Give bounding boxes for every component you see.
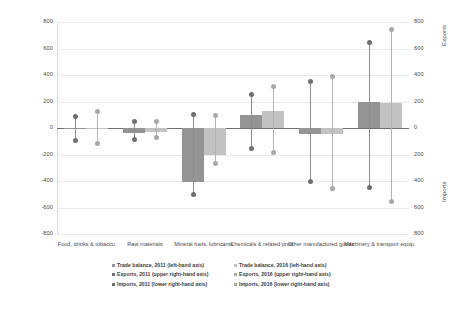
import-marker-dot [271, 150, 276, 155]
import-marker-dot [95, 141, 100, 146]
y-tick-right: 400 [414, 178, 424, 184]
export-import-stem [332, 76, 333, 188]
legend-item[interactable]: Trade balance, 2011 (left-hand axis) [112, 263, 230, 268]
y-tick-right: 800 [414, 19, 424, 25]
import-marker-dot [73, 138, 78, 143]
legend-item-label: Trade balance, 2011 (left-hand axis) [117, 263, 204, 268]
category-group [116, 22, 175, 234]
y-axis-right-lower-title: Imports [441, 181, 447, 202]
y-axis-right-upper-title: Exports [441, 25, 447, 46]
export-marker-dot [330, 74, 335, 79]
export-import-stem [310, 82, 311, 182]
export-marker-dot [389, 27, 394, 32]
legend-item-label: Exports, 2016 (upper right-hand axis) [239, 272, 331, 277]
import-marker-dot [367, 185, 372, 190]
y-tick-left: 600 [43, 46, 53, 52]
export-import-stem [369, 43, 370, 188]
category-group [57, 22, 116, 234]
y-tick-right: 600 [414, 205, 424, 211]
export-marker-dot [308, 79, 313, 84]
plot-area [57, 22, 409, 234]
y-tick-left: -400 [41, 178, 53, 184]
export-import-stem [215, 115, 216, 163]
y-tick-right: 400 [414, 72, 424, 78]
y-tick-left: 800 [43, 19, 53, 25]
legend-item[interactable]: Imports, 2016 (lower right-hand axis) [234, 282, 352, 287]
export-marker-dot [213, 113, 218, 118]
import-marker-dot [213, 161, 218, 166]
y-tick-right: 200 [414, 152, 424, 158]
export-marker-dot [191, 112, 196, 117]
y-tick-right: 0 [414, 125, 417, 131]
y-tick-right: 800 [414, 231, 424, 237]
import-marker-dot [154, 135, 159, 140]
import-marker-dot [389, 199, 394, 204]
legend-item[interactable]: Exports, 2011 (upper right-hand axis) [112, 272, 230, 277]
y-tick-left: -800 [41, 231, 53, 237]
legend-item-label: Imports, 2011 (lower right-hand axis) [117, 282, 207, 287]
import-marker-dot [308, 179, 313, 184]
export-marker-dot [73, 114, 78, 119]
legend-column-2016: Trade balance, 2016 (left-hand axis)Expo… [234, 263, 352, 287]
export-marker-dot [132, 119, 137, 124]
export-marker-dot [95, 109, 100, 114]
legend-swatch-icon [234, 264, 237, 267]
legend-swatch-icon [112, 264, 115, 267]
legend-item[interactable]: Imports, 2011 (lower right-hand axis) [112, 282, 230, 287]
y-tick-left: 0 [50, 125, 53, 131]
export-import-stem [391, 30, 392, 201]
legend-item-label: Imports, 2016 (lower right-hand axis) [239, 282, 330, 287]
legend-item-label: Exports, 2011 (upper right-hand axis) [117, 272, 208, 277]
y-tick-left: -600 [41, 205, 53, 211]
category-group [174, 22, 233, 234]
export-marker-dot [154, 119, 159, 124]
y-tick-left: 200 [43, 99, 53, 105]
y-tick-left: 400 [43, 72, 53, 78]
y-tick-right: 600 [414, 46, 424, 52]
export-marker-dot [271, 84, 276, 89]
category-group [233, 22, 292, 234]
legend-swatch-icon [234, 273, 237, 276]
legend-swatch-icon [234, 283, 237, 286]
import-marker-dot [191, 192, 196, 197]
legend-column-2011: Trade balance, 2011 (left-hand axis)Expo… [112, 263, 230, 287]
import-marker-dot [330, 186, 335, 191]
import-marker-dot [132, 137, 137, 142]
export-import-stem [193, 114, 194, 194]
x-axis-category-label: Machinery & transport equip. [341, 240, 419, 248]
legend-item[interactable]: Exports, 2016 (upper right-hand axis) [234, 272, 352, 277]
legend-swatch-icon [112, 273, 115, 276]
export-marker-dot [367, 40, 372, 45]
chart-legend: Trade balance, 2011 (left-hand axis)Expo… [112, 263, 362, 287]
legend-swatch-icon [112, 283, 115, 286]
import-marker-dot [249, 146, 254, 151]
gridline [57, 234, 409, 235]
export-marker-dot [249, 92, 254, 97]
legend-item-label: Trade balance, 2016 (left-hand axis) [239, 263, 326, 268]
category-group [292, 22, 351, 234]
export-import-stem [251, 95, 252, 149]
export-import-stem [75, 116, 76, 140]
chart-figure: 80080060060040040020020000-200200-400400… [0, 0, 467, 309]
y-tick-right: 200 [414, 99, 424, 105]
legend-item[interactable]: Trade balance, 2016 (left-hand axis) [234, 263, 352, 268]
category-group [350, 22, 409, 234]
y-tick-left: -200 [41, 152, 53, 158]
export-import-stem [273, 86, 274, 153]
export-import-stem [97, 112, 98, 144]
